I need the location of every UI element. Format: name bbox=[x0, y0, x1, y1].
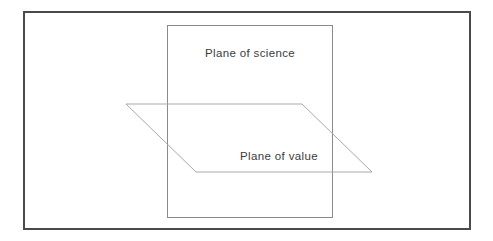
diagram-svg: Plane of science Plane of value bbox=[0, 0, 493, 241]
plane-of-value-label: Plane of value bbox=[240, 150, 318, 162]
plane-of-science-label: Plane of science bbox=[205, 47, 295, 59]
figure-canvas: Plane of science Plane of value bbox=[0, 0, 493, 241]
figure-background bbox=[0, 0, 493, 241]
